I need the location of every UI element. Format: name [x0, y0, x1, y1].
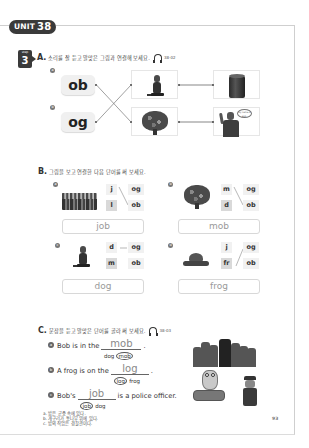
translations: a. 밥은 군중 속에 있다. b. 개구리가 통나무 위에 있다. c. 밥의…: [43, 411, 98, 427]
section-c-title: C. 문장을 듣고 알맞은 단어를 골라 써 보세요. 38-03: [38, 326, 171, 335]
frog-image: [183, 250, 209, 268]
unit-label: UNIT: [14, 20, 35, 34]
marker-b-icon: b: [48, 367, 54, 373]
blank-c[interactable]: job: [78, 389, 116, 400]
choice-job-selected[interactable]: job: [80, 402, 93, 410]
section-c-letter: C.: [38, 326, 47, 335]
blank-b[interactable]: log: [111, 364, 149, 375]
rime-tile[interactable]: og: [243, 184, 259, 195]
police-officer-illustration: [242, 376, 258, 406]
onset-tile[interactable]: m: [221, 184, 232, 195]
speech-bubble: My name is Bob.: [237, 109, 252, 118]
picture-log[interactable]: [213, 70, 260, 99]
tree-crowd-image: [142, 111, 168, 135]
sentence-b-before: A frog is on the: [57, 367, 109, 375]
syllable-og[interactable]: og: [61, 112, 95, 132]
onset-tile[interactable]: j: [106, 184, 117, 195]
log-image: [229, 76, 245, 98]
choice-dog[interactable]: dog: [104, 353, 114, 359]
marker-b-icon: b: [168, 182, 173, 187]
rime-tile[interactable]: og: [128, 184, 144, 195]
man-waving-image: My name is Bob.: [220, 109, 250, 137]
marker-d-icon: d: [168, 243, 173, 248]
sentence-c-before: Bob's: [57, 392, 76, 400]
sentence-b-after: .: [151, 367, 153, 375]
dog-image: [77, 246, 89, 268]
picture-mob[interactable]: [131, 107, 178, 136]
mob-image: [184, 185, 210, 209]
syllable-ob[interactable]: ob: [61, 75, 95, 95]
section-c-instruction: 문장을 듣고 알맞은 단어를 골라 써 보세요.: [49, 327, 146, 334]
sentence-c-after: is a police officer.: [118, 392, 177, 400]
marker-c-icon: c: [48, 392, 54, 398]
section-a-track: 38-02: [164, 55, 176, 60]
choice-dog[interactable]: dog: [95, 403, 105, 409]
marker-a-icon: a: [53, 182, 58, 187]
rime-tile[interactable]: ob: [243, 258, 259, 269]
section-b-title: B. 그림을 보고 연결한 다음 단어를 써 보세요.: [38, 167, 146, 176]
choices-b: log frog: [114, 378, 140, 384]
onset-tile[interactable]: l: [106, 200, 117, 211]
marker-a-icon: a: [50, 68, 55, 73]
sentence-b: b A frog is on the log .: [48, 364, 153, 375]
marker-c-icon: c: [55, 243, 60, 248]
section-a-letter: A.: [37, 53, 46, 62]
crowd-image: [62, 193, 97, 210]
choice-mob-selected[interactable]: mob: [116, 352, 133, 360]
step-badge: step 3: [18, 50, 32, 68]
unit-badge: UNIT 38: [9, 20, 56, 34]
step-arrow-icon: [32, 56, 36, 62]
marker-b-icon: b: [50, 105, 55, 110]
onset-tile[interactable]: fr: [221, 258, 232, 269]
choice-log-selected[interactable]: log: [114, 377, 127, 385]
choice-frog[interactable]: frog: [129, 378, 140, 384]
rime-tile[interactable]: ob: [128, 200, 144, 211]
frog-on-log-illustration: [193, 370, 227, 404]
choices-a: dog mob: [104, 353, 133, 359]
section-a-instruction: 소리를 잘 듣고 알맞은 그림과 연결해 보세요.: [48, 54, 150, 61]
rime-tile[interactable]: ob: [128, 258, 144, 269]
step-number: 3: [18, 55, 32, 66]
rime-tile[interactable]: og: [128, 242, 144, 253]
sentence-a-before: Bob is in the: [57, 342, 99, 350]
mob-illustration: [193, 335, 257, 367]
rime-tile[interactable]: og: [243, 242, 259, 253]
onset-tile[interactable]: d: [106, 242, 117, 253]
headphones-icon[interactable]: [154, 54, 162, 61]
section-b-letter: B.: [38, 167, 47, 176]
section-c-track: 38-03: [159, 328, 171, 333]
section-a-title: A. 소리를 잘 듣고 알맞은 그림과 연결해 보세요. 38-02: [37, 53, 176, 62]
answer-field-d[interactable]: frog: [178, 279, 260, 294]
headphones-icon[interactable]: [149, 327, 157, 334]
page-number: 93: [272, 416, 278, 421]
picture-dog[interactable]: [131, 70, 178, 99]
marker-a-icon: a: [48, 342, 54, 348]
rime-tile[interactable]: ob: [243, 200, 259, 211]
sentence-c: c Bob's job is a police officer.: [48, 389, 177, 400]
sentence-a-after: .: [143, 342, 145, 350]
choices-c: job dog: [80, 403, 106, 409]
translation-c: c. 밥의 직업은 경찰관이다.: [43, 421, 98, 426]
onset-tile[interactable]: j: [221, 242, 232, 253]
picture-bob[interactable]: My name is Bob.: [213, 107, 260, 136]
blank-a[interactable]: mob: [101, 339, 141, 350]
unit-number: 38: [37, 20, 51, 34]
section-b-instruction: 그림을 보고 연결한 다음 단어를 써 보세요.: [49, 168, 146, 175]
dog-image: [151, 75, 163, 97]
answer-field-b[interactable]: mob: [178, 219, 260, 234]
onset-tile[interactable]: d: [221, 200, 232, 211]
answer-field-a[interactable]: job: [62, 219, 144, 234]
answer-field-c[interactable]: dog: [62, 279, 144, 294]
sentence-a: a Bob is in the mob .: [48, 339, 146, 350]
onset-tile[interactable]: m: [106, 258, 117, 269]
